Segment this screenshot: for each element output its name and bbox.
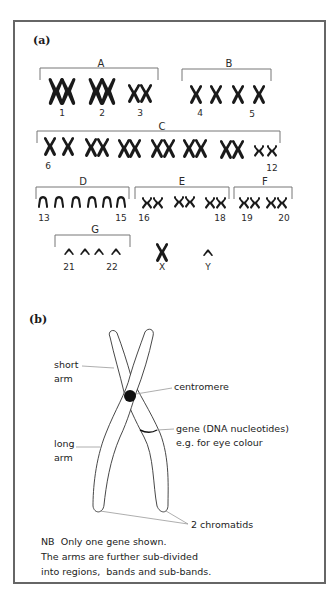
group-a-bracket [40,68,158,80]
group-g-bracket [55,235,130,247]
group-b-label: B [226,58,233,69]
chromosome-pair-6 [44,137,74,156]
chromosome-number-1: 1 [59,108,65,118]
chromosome-diagram [93,329,168,512]
chromatids-leader-left [100,511,188,524]
group-g: G 21 22 [55,224,130,272]
chromosome-number-15: 15 [115,213,126,223]
group-c: C 6 12 [37,121,280,173]
chromosome-number-4: 4 [197,108,203,118]
chromosome-number-6: 6 [45,161,51,171]
long-arm-label-line1: long [54,438,75,449]
note-block: NB Only one gene shown. The arms are fur… [40,536,211,577]
group-d-bracket [36,187,129,199]
chromosome-pair-21 [64,248,90,255]
short-arm-label-line1: short [54,359,79,370]
group-d: D 13 15 [36,176,129,223]
figure-frame [14,21,325,583]
note-line-2: The arms are further sub-divided [40,551,198,562]
sex-chromosomes: X Y [156,243,213,272]
group-b-bracket [182,69,271,81]
group-b: B 4 5 [182,58,271,119]
chromosome-number-18: 18 [214,213,226,223]
chromosome-pair-20 [266,197,287,209]
centromere-dot [124,390,136,402]
note-line-1: NB Only one gene shown. [41,536,167,547]
chromosome-pair-5 [232,85,265,104]
chromosome-number-2: 2 [99,108,105,118]
group-g-label: G [91,224,99,235]
chromosome-number-16: 16 [138,213,150,223]
gene-leader [157,429,174,430]
panel-a-label: (a) [33,34,51,47]
chromatids-label: 2 chromatids [191,519,253,530]
chromosome-number-12: 12 [266,163,277,173]
chromosome-pair-16 [142,197,163,209]
short-arm-leader [82,366,114,368]
chromosome-pair-17 [174,196,195,208]
chromosome-pair-4 [190,85,222,104]
chromosome-pair-7 [85,138,109,157]
chromosome-number-21: 21 [63,262,74,272]
centromere-leader [136,388,172,394]
group-c-label: C [159,121,166,132]
group-a: A 1 2 3 [40,58,158,118]
chromosome-number-19: 19 [241,213,253,223]
group-a-label: A [98,58,105,69]
chromosome-pair-18 [205,197,226,209]
group-f: F 19 20 [234,176,292,223]
chromosome-x [156,243,168,262]
chromosome-pair-1 [49,78,76,105]
centromere-label: centromere [174,381,229,392]
chromosome-number-3: 3 [137,108,143,118]
chromosome-y [203,249,213,256]
chromosome-group-d-row [38,196,126,208]
gene-label-line1: gene (DNA nucleotides) [176,423,289,434]
chromosome-pair-12 [254,145,277,157]
short-arm-label-line2: arm [54,373,73,384]
chromosome-pair-19 [239,197,260,209]
group-e-bracket [135,187,229,199]
chromosome-pair-11 [220,140,244,159]
chromosome-pair-9 [151,139,175,158]
group-f-bracket [234,187,292,199]
chromosome-label-y: Y [204,262,211,272]
chromosome-pair-8 [118,139,141,158]
group-f-label: F [262,176,268,187]
chromosome-label-x: X [159,262,165,272]
group-e: E 16 18 [135,176,229,223]
long-arm-label-line2: arm [54,452,73,463]
karyotype-figure: (a) A 1 2 3 B 4 5 C [0,0,335,593]
chromosome-number-13: 13 [38,213,49,223]
panel-b-label: (b) [29,313,47,326]
chromosome-pair-3 [128,84,152,103]
chromosome-pair-10 [183,139,207,158]
chromosome-pair-22 [94,248,121,255]
group-e-label: E [179,176,185,187]
chromosome-number-5: 5 [249,109,255,119]
chromosome-number-20: 20 [278,213,290,223]
gene-label-line2: e.g. for eye colour [176,437,263,448]
note-line-3: into regions, bands and sub-bands. [41,566,211,577]
annotations: short arm centromere gene (DNA nucleotid… [54,359,289,530]
chromosome-pair-2 [89,78,116,105]
group-d-label: D [79,176,87,187]
chromosome-number-22: 22 [106,262,117,272]
